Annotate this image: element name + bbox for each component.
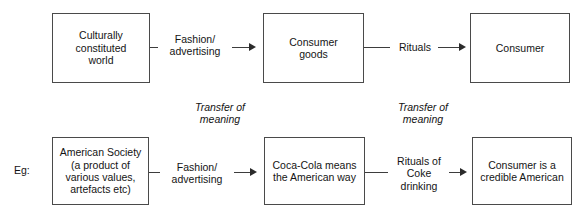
edge-label-rituals-top: Rituals [392,41,438,53]
node-consumer-goods: Consumer goods [263,13,364,83]
connector-line-coke-to-american-left [365,172,388,173]
annotation-transfer-of-meaning-2: Transfer of meaning [375,101,471,126]
annotation-transfer-of-meaning-1: Transfer of meaning [172,101,268,126]
node-american-society: American Society (a product of various v… [52,137,149,205]
edge-label-rituals-of-coke: Rituals of Coke drinking [389,155,449,192]
edge-label-fashion-advertising-top: Fashion/ advertising [158,33,232,58]
node-coca-cola-meaning: Coca-Cola means the American way [264,137,365,205]
node-label-consumer-goods: Consumer goods [287,36,339,61]
connector-line-goods-to-consumer-left [364,47,390,48]
node-label-coca-cola-meaning: Coca-Cola means the American way [271,159,357,184]
arrowhead-society-to-coke [250,168,257,176]
node-label-culturally-constituted-world: Culturally constituted world [74,29,129,66]
edge-label-fashion-advertising-bottom: Fashion/ advertising [160,161,234,186]
node-label-credible-american: Consumer is a credible American [479,159,564,184]
node-culturally-constituted-world: Culturally constituted world [52,13,150,83]
diagram-canvas: Culturally constituted world Consumer go… [0,0,586,218]
node-consumer: Consumer [470,13,570,83]
arrowhead-coke-to-american [460,168,467,176]
node-label-american-society: American Society (a product of various v… [58,146,144,196]
node-credible-american: Consumer is a credible American [472,137,572,205]
node-label-consumer: Consumer [494,42,546,54]
arrowhead-goods-to-consumer [459,43,466,51]
row-prefix-example: Eg: [14,164,30,176]
arrowhead-world-to-goods [249,43,256,51]
